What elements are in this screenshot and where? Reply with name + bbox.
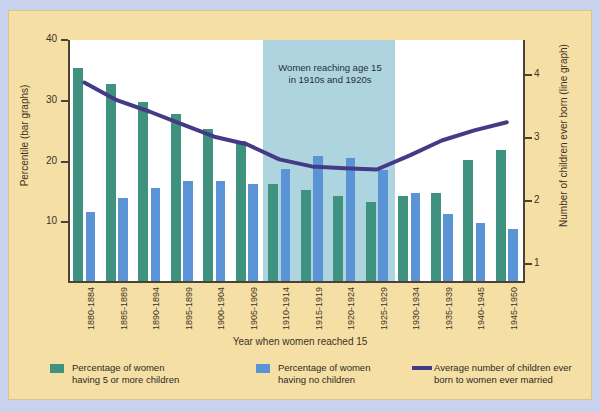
right-tick-mark	[525, 263, 532, 265]
x-tick-label: 1885-1889	[119, 287, 129, 330]
plot-area: Women reaching age 15 in 1910s and 1920s	[68, 40, 523, 283]
right-axis-line	[523, 40, 525, 283]
x-tick-label: 1895-1899	[184, 287, 194, 330]
x-tick-label: 1945-1950	[509, 287, 519, 330]
legend-swatch-line	[412, 366, 432, 370]
legend-item: Percentage of womenhaving no children	[256, 362, 370, 386]
x-tick-label: 1910-1914	[281, 287, 291, 330]
legend-label-line-2: having no children	[278, 374, 370, 386]
legend-swatch-blue	[256, 364, 270, 373]
x-tick-label: 1920-1924	[346, 287, 356, 330]
legend-label: Percentage of womenhaving 5 or more chil…	[72, 362, 179, 386]
legend-label-line-1: Percentage of women	[278, 362, 370, 374]
legend-label: Average number of children everborn to w…	[434, 362, 572, 386]
legend-label-line-2: having 5 or more children	[72, 374, 179, 386]
x-tick-label: 1905-1909	[249, 287, 259, 330]
x-tick-label: 1915-1919	[314, 287, 324, 330]
legend-item: Percentage of womenhaving 5 or more chil…	[50, 362, 179, 386]
right-tick-label: 3	[534, 131, 558, 142]
left-tick-label: 30	[33, 94, 57, 105]
right-tick-mark	[525, 74, 532, 76]
right-tick-label: 1	[534, 257, 558, 268]
legend-swatch-green	[50, 364, 64, 373]
right-axis-title: Number of children ever born (line graph…	[558, 11, 569, 261]
legend-label-line-1: Average number of children ever	[434, 362, 572, 374]
left-tick-mark	[61, 161, 68, 163]
x-tick-label: 1930-1934	[411, 287, 421, 330]
legend-label: Percentage of womenhaving no children	[278, 362, 370, 386]
legend: Percentage of womenhaving 5 or more chil…	[8, 362, 592, 396]
x-tick-label: 1935-1939	[444, 287, 454, 330]
line-series	[70, 40, 523, 281]
right-tick-mark	[525, 200, 532, 202]
legend-item: Average number of children everborn to w…	[412, 362, 572, 386]
left-axis-title: Percentile (bar graphs)	[19, 26, 30, 246]
x-tick-label: 1900-1904	[216, 287, 226, 330]
left-tick-mark	[61, 100, 68, 102]
legend-label-line-1: Percentage of women	[72, 362, 179, 374]
left-tick-label: 20	[33, 155, 57, 166]
right-tick-label: 4	[534, 68, 558, 79]
left-tick-mark	[61, 39, 68, 41]
x-axis-title: Year when women reached 15	[8, 336, 592, 347]
right-tick-label: 2	[534, 194, 558, 205]
x-tick-label: 1890-1894	[151, 287, 161, 330]
legend-label-line-2: born to women ever married	[434, 374, 572, 386]
x-tick-label: 1925-1929	[379, 287, 389, 330]
left-tick-label: 10	[33, 215, 57, 226]
x-tick-label: 1880-1884	[86, 287, 96, 330]
right-tick-mark	[525, 137, 532, 139]
x-tick-label: 1940-1945	[476, 287, 486, 330]
left-tick-label: 40	[33, 33, 57, 44]
chart-panel: Women reaching age 15 in 1910s and 1920s…	[8, 10, 592, 400]
left-tick-mark	[61, 221, 68, 223]
